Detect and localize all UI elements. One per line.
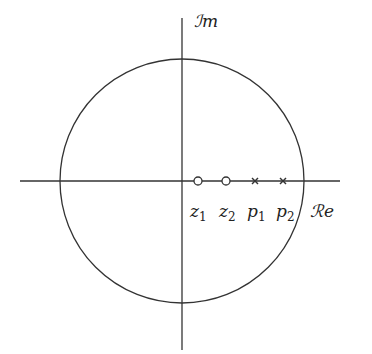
pole-zero-diagram: ℐm ℛe z1 z2 p1 p2 [0,0,372,354]
pole-label-p2: p2 [276,201,295,224]
imag-axis-label: ℐm [194,11,218,31]
pole-label-p1: p1 [247,201,266,224]
zero-marker-z2 [222,177,230,185]
real-axis-label: ℛe [310,201,334,221]
zero-marker-z1 [194,177,202,185]
zero-label-z2: z2 [218,201,236,224]
zero-label-z1: z1 [189,201,207,224]
